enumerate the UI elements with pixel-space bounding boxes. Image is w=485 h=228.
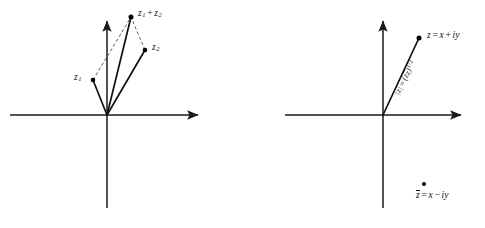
label-z2-subscript: 2 xyxy=(156,45,160,52)
point-z xyxy=(417,36,422,41)
label-z1-plus-z2: z1+z2 xyxy=(138,9,162,19)
point-z2 xyxy=(143,48,148,53)
vector-z1 xyxy=(93,80,107,115)
point-z1-plus-z2 xyxy=(129,15,134,20)
panel-vector-addition xyxy=(10,15,198,209)
vector-z1-plus-z2 xyxy=(107,17,131,115)
figure-canvas xyxy=(0,0,485,228)
panel-modulus-conjugate xyxy=(285,21,461,208)
label-sum-operator: + xyxy=(146,8,155,18)
label-point-rhs-iy: iy xyxy=(452,30,459,40)
label-sum-right-subscript: 2 xyxy=(158,11,162,18)
point-z-conjugate xyxy=(422,182,426,186)
vector-z2 xyxy=(107,50,145,115)
dashed-edge-z2-to-sum xyxy=(131,17,145,50)
label-conjugate-z: z=x−iy xyxy=(416,190,449,201)
label-point-z: z=x+iy xyxy=(427,31,460,41)
label-conjugate-rhs-iy: iy xyxy=(441,190,448,200)
label-z1-subscript: 1 xyxy=(78,75,82,82)
point-z1 xyxy=(91,78,96,83)
complex-plane-figure: z1 z2 z1+z2 |z|=(zz)1/2 z=x+iy z=x−iy xyxy=(0,0,485,228)
dashed-edge-z1-to-sum xyxy=(93,17,131,80)
label-z1: z1 xyxy=(74,73,82,83)
label-z2: z2 xyxy=(152,43,160,53)
